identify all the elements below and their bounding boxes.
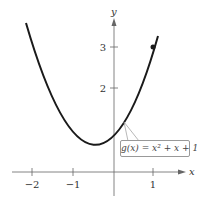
x-tick-label: −1 (66, 179, 81, 190)
y-axis-label: y (110, 6, 117, 17)
x-tick-label: 1 (150, 179, 156, 190)
equation-label: g(x) = x² + x + 1 (120, 140, 190, 157)
function-graph: −2 −1 1 2 3 x y (0, 0, 201, 201)
marked-point (151, 45, 156, 50)
y-tick-label: 3 (100, 42, 106, 53)
parabola-curve (26, 23, 158, 145)
x-axis-label: x (189, 166, 195, 177)
y-axis-arrow-icon (112, 18, 117, 26)
x-axis-arrow-icon (178, 170, 186, 175)
y-tick-label: 2 (100, 83, 106, 94)
x-tick-label: −2 (25, 179, 40, 190)
